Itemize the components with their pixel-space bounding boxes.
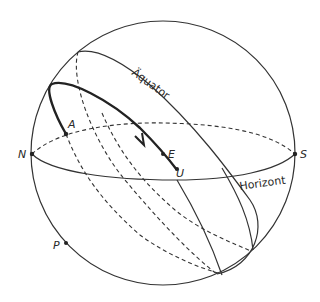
label-north: N	[18, 148, 26, 161]
equator-front-arc	[78, 51, 258, 274]
label-e: E	[168, 148, 175, 161]
parallel-back-arc-2	[102, 113, 251, 251]
point-n	[30, 152, 34, 156]
label-horizon: Horizont	[239, 174, 287, 193]
parallel-back-arc	[66, 134, 218, 273]
label-equator: Äquator	[129, 66, 172, 102]
point-e	[161, 152, 165, 156]
celestial-sphere-diagram: N S A E U P Äquator Horizont	[0, 0, 320, 302]
label-p: P	[53, 239, 60, 252]
horizon-front-arc	[32, 154, 295, 180]
point-a	[64, 132, 68, 136]
label-u: U	[176, 167, 184, 180]
point-s	[293, 152, 297, 156]
label-south: S	[300, 148, 307, 161]
label-a: A	[67, 118, 76, 131]
direction-arrow-icon	[135, 133, 144, 145]
point-p	[64, 241, 68, 245]
